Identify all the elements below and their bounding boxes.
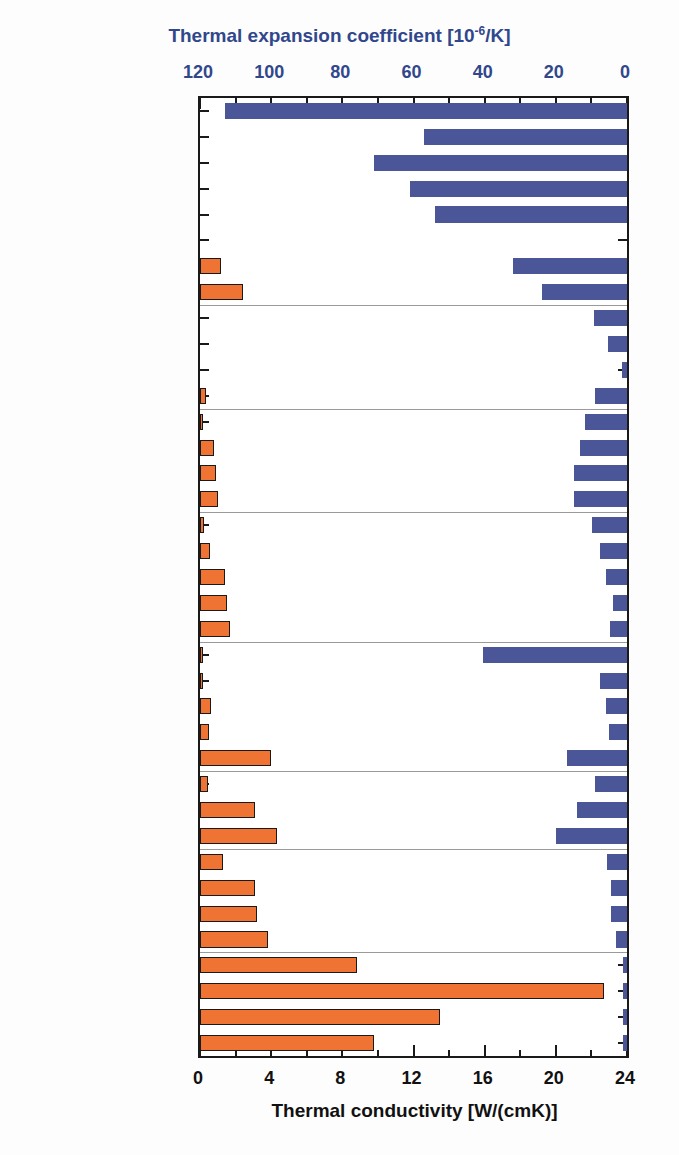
bottom-major-tick (555, 1045, 557, 1056)
bar-conductivity (200, 258, 221, 274)
top-tick-label-40: 40 (473, 62, 493, 83)
bar-expansion (595, 776, 627, 792)
bar-expansion (574, 465, 627, 481)
bar-expansion (623, 983, 627, 999)
bottom-tick-label-12: 12 (401, 1068, 421, 1089)
bar-conductivity (200, 983, 604, 999)
bar-expansion (608, 336, 627, 352)
bar-expansion (622, 362, 627, 378)
bar-conductivity (200, 491, 218, 507)
bar-conductivity (200, 724, 209, 740)
bar-expansion (410, 181, 627, 197)
group-separator-line (200, 409, 627, 410)
top-axis-title-exponent: -6 (475, 24, 486, 38)
bar-expansion (611, 906, 627, 922)
bar-expansion (567, 750, 627, 766)
category-tick-left (200, 317, 209, 319)
bar-conductivity (200, 931, 268, 947)
bar-expansion (600, 673, 627, 689)
bar-conductivity (200, 465, 216, 481)
bar-expansion (574, 491, 627, 507)
bottom-tick-label-20: 20 (544, 1068, 564, 1089)
bar-conductivity (200, 414, 203, 430)
bottom-tick-label-0: 0 (193, 1068, 203, 1089)
bar-expansion (616, 931, 627, 947)
group-separator-line (200, 849, 627, 850)
bar-expansion (585, 414, 627, 430)
bottom-tick-label-24: 24 (615, 1068, 635, 1089)
bar-conductivity (200, 1009, 440, 1025)
group-separator-line (200, 305, 627, 306)
bar-conductivity (200, 569, 225, 585)
bar-expansion (610, 621, 627, 637)
category-tick-left (200, 110, 209, 112)
bottom-major-tick (413, 1045, 415, 1056)
top-tick-label-80: 80 (330, 62, 350, 83)
bar-conductivity (200, 957, 357, 973)
bar-expansion (606, 698, 627, 714)
bar-expansion (513, 258, 627, 274)
bar-conductivity (200, 543, 210, 559)
category-tick-left (200, 214, 209, 216)
top-tick-label-20: 20 (544, 62, 564, 83)
bar-expansion (606, 569, 627, 585)
bottom-tick-label-16: 16 (473, 1068, 493, 1089)
bar-conductivity (200, 621, 230, 637)
bottom-major-tick (484, 1045, 486, 1056)
category-tick-right (618, 239, 627, 241)
top-axis-title-main: Thermal expansion coefficient [10 (168, 25, 474, 46)
top-axis-title: Thermal expansion coefficient [10-6/K] (0, 24, 679, 47)
bottom-tick-label-4: 4 (264, 1068, 274, 1089)
bar-conductivity (200, 673, 203, 689)
bar-expansion (424, 129, 627, 145)
top-major-tick (199, 98, 201, 109)
bar-expansion (592, 517, 627, 533)
top-tick-label-120: 120 (183, 62, 213, 83)
bar-expansion (623, 1035, 627, 1051)
bar-expansion (435, 206, 627, 222)
category-tick-left (200, 188, 209, 190)
group-separator-line (200, 771, 627, 772)
top-tick-label-60: 60 (401, 62, 421, 83)
bar-expansion (600, 543, 627, 559)
category-tick-left (200, 162, 209, 164)
bar-conductivity (200, 517, 204, 533)
top-tick-label-100: 100 (254, 62, 284, 83)
bar-expansion (623, 1009, 627, 1025)
top-axis-title-tail: /K] (485, 25, 510, 46)
group-separator-line (200, 512, 627, 513)
bar-expansion (483, 647, 627, 663)
group-separator-line (200, 952, 627, 953)
bar-conductivity (200, 647, 203, 663)
bar-conductivity (200, 802, 255, 818)
bar-conductivity (200, 880, 255, 896)
bar-expansion (623, 957, 627, 973)
bar-expansion (556, 828, 627, 844)
bar-conductivity (200, 1035, 374, 1051)
bar-expansion (595, 388, 627, 404)
bar-expansion (577, 802, 627, 818)
top-tick-label-0: 0 (620, 62, 630, 83)
bar-conductivity (200, 906, 257, 922)
bar-expansion (613, 595, 627, 611)
bar-expansion (609, 724, 627, 740)
bar-expansion (611, 880, 627, 896)
thermal-properties-chart: Thermal expansion coefficient [10-6/K] 1… (0, 0, 679, 1155)
bar-conductivity (200, 854, 223, 870)
bar-conductivity (200, 698, 211, 714)
bottom-minor-tick (377, 1050, 379, 1056)
bottom-minor-tick (448, 1050, 450, 1056)
bar-conductivity (200, 595, 227, 611)
category-tick-left (200, 369, 209, 371)
bar-conductivity (200, 776, 208, 792)
bottom-minor-tick (590, 1050, 592, 1056)
bar-expansion (225, 103, 627, 119)
bar-conductivity (200, 284, 243, 300)
category-tick-left (200, 343, 209, 345)
category-tick-left (200, 136, 209, 138)
bar-expansion (594, 310, 627, 326)
bar-expansion (607, 854, 627, 870)
bar-conductivity (200, 440, 214, 456)
bar-conductivity (200, 388, 206, 404)
bar-expansion (542, 284, 627, 300)
